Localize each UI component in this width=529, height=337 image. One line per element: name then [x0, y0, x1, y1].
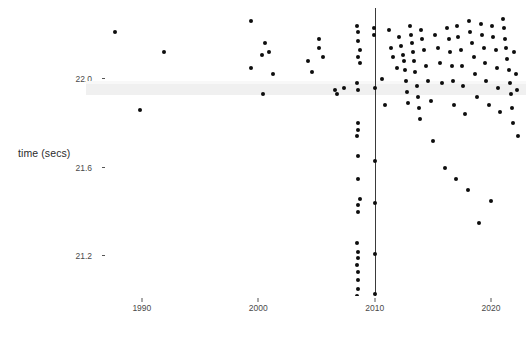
data-point	[395, 66, 399, 70]
data-point	[358, 48, 362, 52]
x-tick-label: 2010	[353, 303, 397, 314]
data-point	[401, 53, 405, 57]
data-point	[443, 166, 447, 170]
data-point	[355, 241, 359, 245]
data-point	[372, 26, 376, 30]
data-point	[501, 17, 505, 21]
data-point	[487, 103, 491, 107]
data-point	[317, 37, 321, 41]
data-point	[466, 188, 470, 192]
data-point	[436, 46, 440, 50]
data-point	[260, 53, 264, 57]
x-tick-2020: 2020	[469, 303, 513, 314]
data-point	[491, 35, 495, 39]
data-point	[438, 61, 442, 65]
x-tick-1990: 1990	[120, 303, 164, 314]
data-point	[373, 86, 377, 90]
data-point	[483, 61, 487, 65]
x-tick-label: 1990	[120, 303, 164, 314]
data-point	[467, 19, 471, 23]
data-point	[373, 292, 377, 296]
data-point	[402, 59, 406, 63]
data-point	[113, 30, 117, 34]
scatter-chart: time (secs) 22.021.621.2 199020002010202…	[0, 0, 529, 337]
data-point	[477, 221, 481, 225]
data-point	[263, 41, 267, 45]
x-tick-2010: 2010	[353, 303, 397, 314]
data-point	[416, 95, 420, 99]
data-point	[511, 121, 515, 125]
data-point	[355, 134, 359, 138]
data-point	[138, 108, 142, 112]
x-tick-mark	[374, 298, 375, 302]
data-point	[459, 48, 463, 52]
data-point	[406, 101, 410, 105]
data-point	[429, 99, 433, 103]
data-point	[450, 64, 454, 68]
data-point	[468, 30, 472, 34]
data-point	[448, 50, 452, 54]
data-point	[417, 106, 421, 110]
data-point	[479, 22, 483, 26]
data-point	[356, 250, 360, 254]
y-axis-title: time (secs)	[18, 147, 70, 159]
data-point	[431, 139, 435, 143]
data-point	[455, 24, 459, 28]
data-point	[480, 33, 484, 37]
data-point	[415, 84, 419, 88]
data-point	[373, 201, 377, 205]
data-point	[505, 57, 509, 61]
x-tick-label: 2000	[236, 303, 280, 314]
data-point	[335, 92, 339, 96]
data-point	[413, 70, 417, 74]
data-point	[249, 66, 253, 70]
data-point	[358, 197, 362, 201]
data-point	[383, 103, 387, 107]
data-point	[356, 278, 360, 282]
data-point	[507, 68, 511, 72]
data-point	[408, 24, 412, 28]
data-point	[310, 70, 314, 74]
data-point	[271, 72, 275, 76]
data-point	[391, 55, 395, 59]
data-point	[496, 86, 500, 90]
data-point	[489, 199, 493, 203]
horizontal-shaded-band	[86, 84, 526, 95]
data-point	[356, 121, 360, 125]
data-point	[461, 84, 465, 88]
data-point	[358, 61, 362, 65]
data-point	[473, 72, 477, 76]
data-point	[460, 64, 464, 68]
data-point	[419, 28, 423, 32]
x-tick-mark	[491, 298, 492, 302]
data-point	[356, 210, 360, 214]
data-point	[514, 72, 518, 76]
data-point	[397, 35, 401, 39]
data-point	[475, 95, 479, 99]
plot-panel	[86, 8, 526, 296]
data-point	[412, 59, 416, 63]
data-point	[512, 50, 516, 54]
x-tick-mark	[258, 298, 259, 302]
data-point	[317, 46, 321, 50]
data-point	[452, 103, 456, 107]
x-tick-label: 2020	[469, 303, 513, 314]
x-tick-2000: 2000	[236, 303, 280, 314]
data-point	[510, 106, 514, 110]
data-point	[445, 26, 449, 30]
data-point	[356, 154, 360, 158]
data-point	[422, 48, 426, 52]
data-point	[356, 128, 360, 132]
data-point	[306, 59, 310, 63]
data-point	[411, 50, 415, 54]
data-point	[502, 26, 506, 30]
data-point	[454, 177, 458, 181]
data-point	[321, 55, 325, 59]
data-point	[372, 33, 376, 37]
data-point	[267, 50, 271, 54]
data-point	[451, 79, 455, 83]
data-point	[356, 30, 360, 34]
data-point	[498, 110, 502, 114]
data-point	[470, 41, 474, 45]
data-point	[433, 33, 437, 37]
